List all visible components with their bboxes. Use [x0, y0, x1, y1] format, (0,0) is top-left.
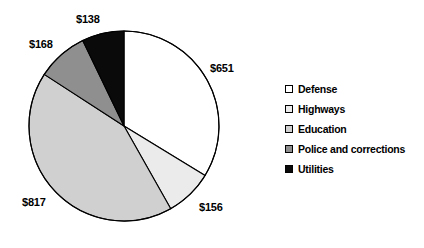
legend-item-highways[interactable]: Highways — [285, 99, 424, 119]
value-label-police: $168 — [29, 38, 53, 50]
legend-item-police-and-corrections[interactable]: Police and corrections — [285, 139, 424, 159]
pie-chart: $651 $156 $817 $168 $138 — [0, 0, 250, 248]
value-label-utilities: $138 — [76, 13, 100, 25]
legend-item-defense[interactable]: Defense — [285, 79, 424, 99]
value-label-highways: $156 — [199, 201, 223, 213]
legend-item-education[interactable]: Education — [285, 119, 424, 139]
legend-item-label: Education — [298, 124, 347, 135]
legend-item-label: Police and corrections — [298, 144, 405, 155]
legend-swatch-icon — [285, 125, 293, 133]
legend-swatch-icon — [285, 145, 293, 153]
value-label-defense: $651 — [210, 62, 234, 74]
chart-legend: Defense Highways Education Police and co… — [285, 79, 424, 179]
value-label-education: $817 — [22, 196, 46, 208]
legend-item-utilities[interactable]: Utilities — [285, 159, 424, 179]
legend-swatch-icon — [285, 85, 293, 93]
legend-item-label: Utilities — [298, 164, 334, 175]
legend-item-label: Defense — [298, 84, 337, 95]
legend-item-label: Highways — [298, 104, 345, 115]
legend-swatch-icon — [285, 165, 293, 173]
legend-swatch-icon — [285, 105, 293, 113]
chart-canvas: $651 $156 $817 $168 $138 Defense Highway… — [0, 0, 424, 248]
